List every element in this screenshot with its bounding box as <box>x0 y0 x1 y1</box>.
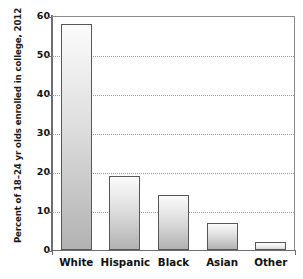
y-axis-tick-label: 30 <box>30 128 50 138</box>
y-axis-tick-label: 20 <box>30 167 50 177</box>
y-axis-tick-label: 0 <box>30 245 50 255</box>
y-axis-tick-label: 40 <box>30 89 50 99</box>
x-axis-label-white: White <box>52 256 101 268</box>
x-axis-tick <box>52 250 53 255</box>
y-axis-title-text: Percent of 18–24 yr olds enrolled in col… <box>14 7 25 242</box>
y-axis-tick <box>48 212 52 213</box>
x-axis-label-other: Other <box>246 256 295 268</box>
y-axis-tick-label: 60 <box>30 11 50 21</box>
x-axis-label-hispanic: Hispanic <box>101 256 150 268</box>
bar-white <box>61 24 92 250</box>
x-axis-label-asian: Asian <box>198 256 247 268</box>
y-axis-tick <box>48 134 52 135</box>
y-axis-tick-labels: 0102030405060 <box>26 0 50 279</box>
y-axis-tick <box>48 173 52 174</box>
plot-area <box>52 16 295 250</box>
y-axis-tick-label: 10 <box>30 206 50 216</box>
x-axis-tick <box>295 250 296 255</box>
bar-asian <box>207 223 238 250</box>
y-axis-tick-label: 50 <box>30 50 50 60</box>
y-axis-tick <box>48 56 52 57</box>
y-axis-tick <box>48 17 52 18</box>
bar-black <box>158 195 189 250</box>
y-axis-tick <box>48 95 52 96</box>
bar-other <box>255 242 286 250</box>
x-axis-label-black: Black <box>149 256 198 268</box>
bar-chart: Percent of 18–24 yr olds enrolled in col… <box>0 0 303 279</box>
bar-hispanic <box>109 176 140 250</box>
